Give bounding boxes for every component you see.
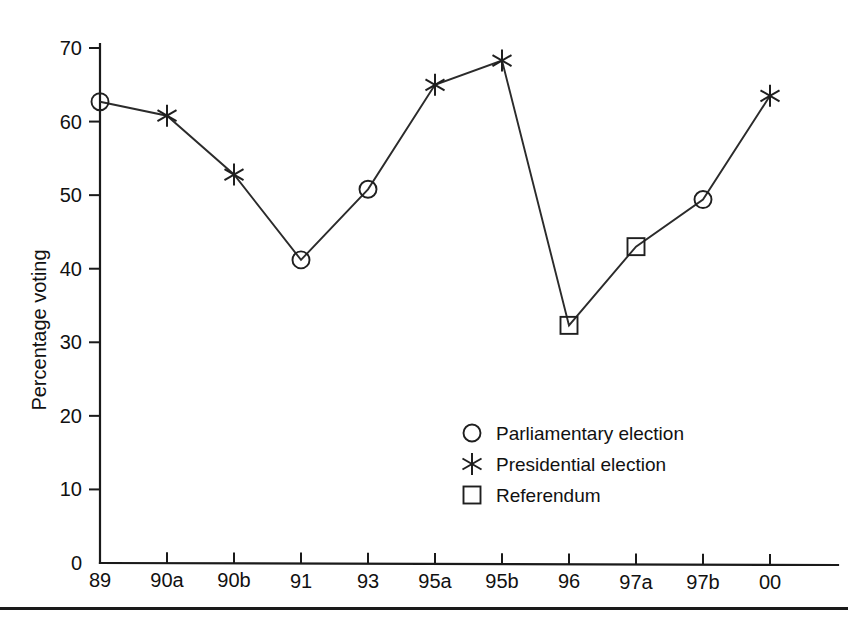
y-tick-label: 40 [60,258,82,280]
legend-item: Presidential election [462,453,666,475]
y-tick-label: 10 [60,478,82,500]
y-tick-label: 70 [60,37,82,59]
chart-legend: Parliamentary electionPresidential elect… [462,423,684,506]
legend-label: Parliamentary election [496,423,684,444]
y-axis-tick-labels: 010203040506070 [60,37,82,574]
y-axis-title: Percentage voting [28,249,50,410]
y-axis-ticks [89,48,100,489]
y-tick-label: 20 [60,405,82,427]
series-polyline [100,61,770,326]
page-divider-rule [0,607,848,610]
x-tick-label: 00 [759,571,781,593]
x-tick-label: 91 [290,570,312,592]
legend-marker-square-icon [464,487,481,504]
chart-figure: 010203040506070 8990a90b919395a95b9697a9… [0,0,848,624]
x-tick-label: 96 [558,570,580,592]
x-axis-tick-labels: 8990a90b919395a95b9697a97b00 [89,569,781,593]
data-point-marker-star [425,74,444,96]
legend-marker-star-icon [462,453,481,475]
legend-label: Referendum [496,485,601,506]
x-tick-label: 90b [217,569,250,591]
series-markers [92,50,780,334]
x-tick-label: 95b [485,570,518,592]
data-point-marker-star [492,50,511,72]
legend-item: Parliamentary election [464,423,684,444]
legend-label: Presidential election [496,454,666,475]
line-chart: 010203040506070 8990a90b919395a95b9697a9… [0,0,848,624]
x-axis-line [100,563,838,565]
data-point-marker-star [157,105,176,127]
y-tick-label: 60 [60,111,82,133]
legend-marker-circle-icon [464,425,481,442]
x-tick-label: 93 [357,570,379,592]
legend-item: Referendum [464,485,601,506]
y-tick-label: 0 [71,552,82,574]
x-tick-label: 97b [686,571,719,593]
y-tick-label: 50 [60,184,82,206]
data-point-marker-star [760,85,779,107]
x-tick-label: 95a [418,570,452,592]
x-tick-label: 90a [150,569,184,591]
x-tick-label: 97a [619,571,653,593]
y-tick-label: 30 [60,331,82,353]
x-tick-label: 89 [89,569,111,591]
